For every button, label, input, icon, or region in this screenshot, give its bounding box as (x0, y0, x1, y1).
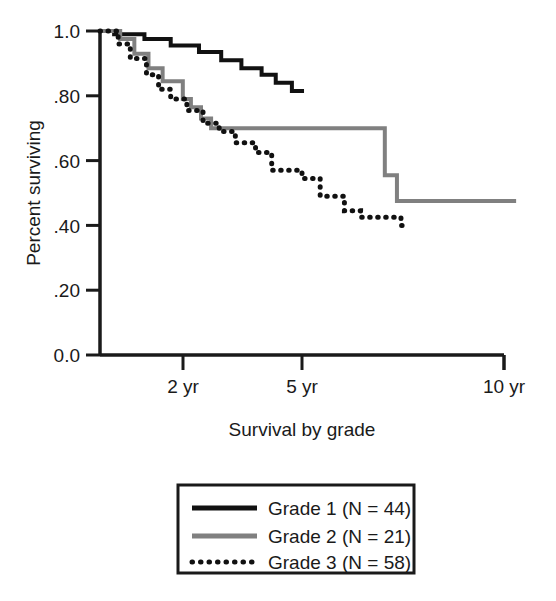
y-tick-label-0.40: .40 (54, 216, 80, 237)
y-tick-label-0.20: .20 (54, 280, 80, 301)
chart-legend: Grade 1 (N = 44) Grade 2 (N = 21) Grade … (178, 485, 414, 573)
y-tick-label-1.0: 1.0 (54, 21, 80, 42)
legend-label-grade-3: Grade 3 (N = 58) (268, 552, 411, 573)
kaplan-meier-chart: 1.0 .80 .60 .40 .20 0.0 2 yr 5 yr 10 yr … (0, 0, 556, 601)
x-tick-label-5yr: 5 yr (286, 376, 318, 397)
y-tick-label-0.0: 0.0 (54, 345, 80, 366)
survival-curve-figure: 1.0 .80 .60 .40 .20 0.0 2 yr 5 yr 10 yr … (0, 0, 556, 601)
x-tick-label-10yr: 10 yr (483, 376, 526, 397)
y-axis-title: Percent surviving (23, 120, 44, 266)
y-tick-label-0.60: .60 (54, 151, 80, 172)
x-tick-label-2yr: 2 yr (167, 376, 199, 397)
x-axis-title: Survival by grade (229, 419, 376, 440)
legend-label-grade-1: Grade 1 (N = 44) (268, 498, 411, 519)
y-tick-label-0.80: .80 (54, 86, 80, 107)
legend-label-grade-2: Grade 2 (N = 21) (268, 526, 411, 547)
